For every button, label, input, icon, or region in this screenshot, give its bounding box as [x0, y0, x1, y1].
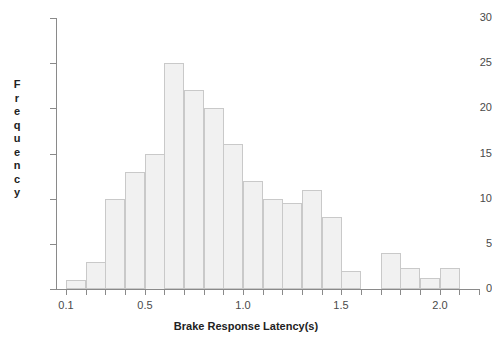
histogram-bar: [263, 199, 283, 289]
y-tick-label: 15: [450, 148, 492, 159]
histogram-figure: 051015202530 Frequency 0.10.51.01.52.0 B…: [0, 0, 492, 345]
histogram-bar: [223, 144, 243, 289]
y-axis-title-letter: e: [10, 105, 24, 119]
x-tick: [223, 289, 224, 295]
y-tick-label: 25: [450, 57, 492, 68]
histogram-bar: [381, 253, 401, 289]
x-tick: [440, 289, 441, 295]
y-tick: [50, 199, 56, 200]
x-tick: [479, 289, 480, 295]
x-tick: [164, 289, 165, 295]
x-tick-label: 0.5: [125, 299, 165, 311]
x-tick: [145, 289, 146, 295]
histogram-bar: [341, 271, 361, 289]
x-tick: [243, 289, 244, 295]
y-tick: [50, 18, 56, 19]
x-tick: [361, 289, 362, 295]
histogram-bar: [184, 90, 204, 289]
y-axis-title-letter: F: [10, 78, 24, 92]
y-tick-label: 10: [450, 193, 492, 204]
histogram-bar: [282, 203, 302, 289]
x-tick-label: 2.0: [420, 299, 460, 311]
histogram-bar: [86, 262, 106, 289]
histogram-bar: [400, 268, 420, 289]
y-axis-line: [56, 18, 57, 289]
histogram-bar: [66, 280, 86, 289]
histogram-bar: [164, 63, 184, 289]
x-tick: [105, 289, 106, 295]
histogram-bar: [204, 108, 224, 289]
y-axis-title-letter: e: [10, 146, 24, 160]
y-axis-title-letter: c: [10, 173, 24, 187]
x-tick-label: 1.0: [223, 299, 263, 311]
histogram-bar: [243, 181, 263, 289]
x-tick: [341, 289, 342, 295]
y-tick: [50, 244, 56, 245]
x-tick: [282, 289, 283, 295]
histogram-bar: [420, 278, 440, 289]
x-tick: [322, 289, 323, 295]
y-axis-title-letter: u: [10, 132, 24, 146]
x-tick: [420, 289, 421, 295]
y-tick-label: 5: [450, 238, 492, 249]
y-axis-title-letter: n: [10, 159, 24, 173]
y-tick: [50, 154, 56, 155]
y-axis-title-letter: r: [10, 92, 24, 106]
y-axis-title-letter: q: [10, 119, 24, 133]
x-tick: [459, 289, 460, 295]
histogram-bar: [440, 268, 460, 289]
y-axis-title: Frequency: [10, 78, 24, 200]
x-tick: [184, 289, 185, 295]
y-tick: [50, 63, 56, 64]
y-axis-title-letter: y: [10, 186, 24, 200]
x-tick-label: 1.5: [321, 299, 361, 311]
histogram-bar: [125, 172, 145, 289]
x-tick-label: 0.1: [46, 299, 86, 311]
x-tick: [302, 289, 303, 295]
y-tick-label: 30: [450, 12, 492, 23]
y-tick: [50, 108, 56, 109]
x-tick: [86, 289, 87, 295]
x-tick: [125, 289, 126, 295]
x-tick: [263, 289, 264, 295]
y-tick-label: 20: [450, 102, 492, 113]
x-axis-line: [56, 289, 479, 290]
x-tick: [66, 289, 67, 295]
x-tick: [204, 289, 205, 295]
histogram-bar: [105, 199, 125, 289]
x-tick: [381, 289, 382, 295]
histogram-bar: [302, 190, 322, 289]
histogram-bar: [322, 217, 342, 289]
x-tick: [400, 289, 401, 295]
x-axis-title: Brake Response Latency(s): [0, 320, 492, 332]
histogram-bar: [145, 154, 165, 290]
